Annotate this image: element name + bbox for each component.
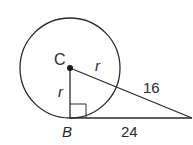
- label-c: C: [54, 52, 66, 68]
- label-b: B: [62, 124, 72, 139]
- label-tangent-length: 24: [121, 124, 138, 139]
- label-external-segment: 16: [143, 80, 160, 95]
- secant-ca: [70, 68, 192, 118]
- center-point: [67, 65, 73, 71]
- label-radius-upper: r: [95, 58, 100, 73]
- geometry-figure: C r r 16 B 24: [0, 0, 193, 145]
- label-radius-left: r: [58, 84, 63, 99]
